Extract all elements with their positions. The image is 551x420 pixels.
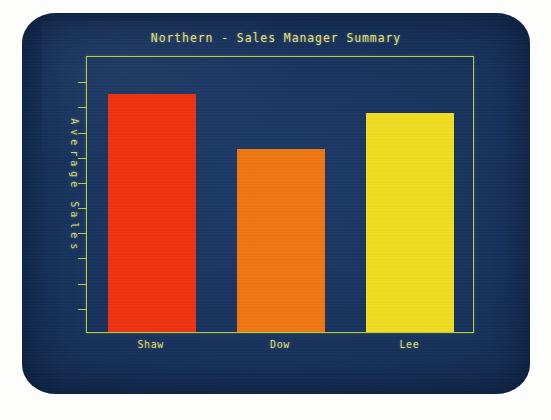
y-axis-title-char: A [69,118,80,124]
category-label-dow: Dow [236,339,324,350]
category-label-lee: Lee [365,339,453,350]
bar-shaw [108,94,196,332]
bar-lee [366,113,454,332]
bar-dow [237,149,325,332]
y-axis-tick [78,309,87,310]
y-axis-title-char: g [69,171,80,177]
y-axis-title-char: S [69,201,80,207]
y-axis-tick [78,82,87,83]
y-axis-title-char: l [69,222,80,228]
plot-frame [86,56,474,333]
crt-screen: Northern - Sales Manager Summary Average… [22,13,530,394]
y-axis-tick [78,208,87,209]
y-axis-tick [78,258,87,259]
y-axis-tick [78,284,87,285]
y-axis-title-char: e [69,139,80,145]
y-axis-title-char: a [69,211,80,217]
y-axis-tick [78,233,87,234]
bars-layer [87,57,473,332]
y-axis-title-char: a [69,160,80,166]
y-axis-tick [78,133,87,134]
y-axis-tick [78,107,87,108]
photograph-of-crt-monitor: Northern - Sales Manager Summary Average… [0,0,551,420]
y-axis-title-char: r [69,150,80,156]
y-axis-tick [78,183,87,184]
category-label-shaw: Shaw [107,339,195,350]
y-axis-tick [78,158,87,159]
y-axis-title-char: s [69,243,80,249]
chart-title: Northern - Sales Manager Summary [22,31,530,45]
